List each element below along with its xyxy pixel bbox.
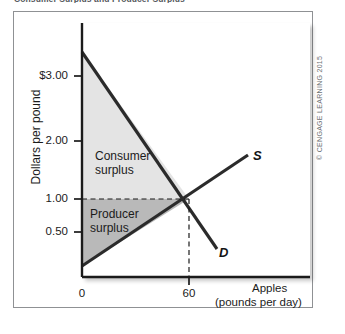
x-tick-label-60: 60	[169, 287, 209, 299]
y-tick-label-200: 2.00	[18, 134, 68, 146]
producer-surplus-label-line1: Producer	[90, 207, 139, 221]
x-axis-title: Apples	[252, 282, 287, 294]
supply-curve-label: S	[253, 148, 262, 163]
chart-svg	[0, 0, 345, 334]
consumer-surplus-label-line2: surplus	[95, 163, 150, 177]
x-axis-subtitle: (pounds per day)	[215, 296, 302, 308]
y-tick-label-050: 0.50	[18, 225, 68, 237]
x-tick-label-0: 0	[62, 287, 102, 299]
y-axis-title: Dollars per pound	[29, 57, 43, 217]
producer-surplus-label-line2: surplus	[90, 221, 139, 235]
y-tick-label-100: 1.00	[18, 192, 68, 204]
demand-curve-label: D	[219, 245, 228, 260]
producer-surplus-label: Producer surplus	[90, 207, 139, 235]
y-tick-label-300: $3.00	[18, 69, 68, 81]
copyright-notice: © CENGAGE LEARNING 2015	[316, 10, 323, 160]
consumer-surplus-label-line1: Consumer	[95, 149, 150, 163]
consumer-surplus-label: Consumer surplus	[95, 149, 150, 177]
figure-container: Consumer Surplus and Producer Surplus $3…	[0, 0, 345, 334]
